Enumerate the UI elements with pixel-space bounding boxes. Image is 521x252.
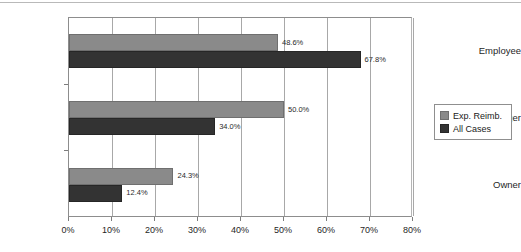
x-tick-label: 0%	[61, 225, 74, 235]
x-tick-mark	[68, 217, 69, 221]
bar	[69, 118, 215, 135]
x-tick-label: 70%	[360, 225, 378, 235]
bar-chart: EmployeeManagerOwner 48.6%67.8%50.0%34.0…	[0, 0, 521, 252]
x-tick-mark	[154, 217, 155, 221]
x-tick-label: 40%	[231, 225, 249, 235]
legend-item-label: All Cases	[453, 124, 491, 134]
x-tick-label: 50%	[274, 225, 292, 235]
legend-item-label: Exp. Reimb.	[453, 111, 502, 121]
x-tick-mark	[240, 217, 241, 221]
gridline	[413, 18, 414, 216]
x-tick-label: 30%	[188, 225, 206, 235]
y-category-label: Owner	[459, 178, 521, 189]
x-tick-mark	[326, 217, 327, 221]
bars-layer: 48.6%67.8%50.0%34.0%24.3%12.4%	[69, 18, 411, 216]
bar-value-label: 12.4%	[126, 189, 147, 197]
x-tick-mark	[369, 217, 370, 221]
bar	[69, 101, 284, 118]
y-category-label: Employee	[459, 45, 521, 56]
x-tick-label: 10%	[102, 225, 120, 235]
bar	[69, 51, 361, 68]
legend-swatch-icon	[440, 111, 449, 120]
x-tick-mark	[283, 217, 284, 221]
legend-item-exp-reimb[interactable]: Exp. Reimb.	[440, 109, 507, 122]
bar-value-label: 67.8%	[365, 56, 386, 64]
bar-value-label: 50.0%	[288, 106, 309, 114]
legend-swatch-icon	[440, 124, 449, 133]
x-tick-label: 80%	[403, 225, 421, 235]
page-top-rule	[0, 2, 521, 3]
x-tick-mark	[412, 217, 413, 221]
x-tick-label: 60%	[317, 225, 335, 235]
bar	[69, 34, 278, 51]
legend-item-all-cases[interactable]: All Cases	[440, 122, 507, 135]
x-tick-mark	[197, 217, 198, 221]
bar-value-label: 24.3%	[177, 172, 198, 180]
bar-value-label: 48.6%	[282, 39, 303, 47]
chart-legend: Exp. Reimb. All Cases	[434, 104, 512, 140]
bar-value-label: 34.0%	[219, 123, 240, 131]
x-tick-label: 20%	[145, 225, 163, 235]
plot-area: 48.6%67.8%50.0%34.0%24.3%12.4%	[68, 17, 412, 217]
bar	[69, 185, 122, 202]
x-tick-mark	[111, 217, 112, 221]
bar	[69, 168, 173, 185]
